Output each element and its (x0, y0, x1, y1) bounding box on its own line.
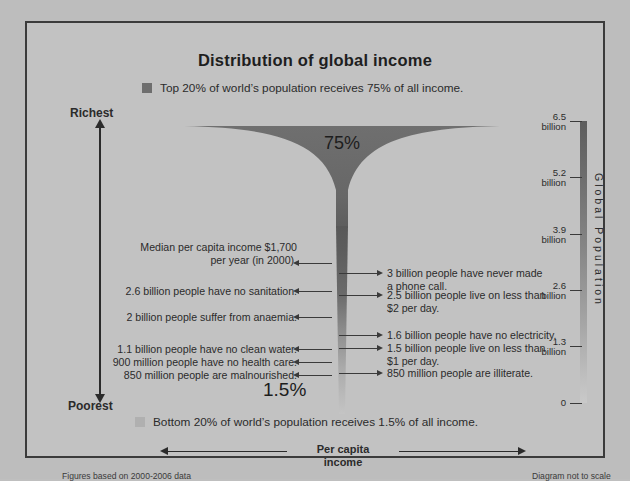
tick-unit: billion (500, 235, 566, 245)
leader-arrow-icon (293, 314, 299, 320)
tick-unit: billion (500, 347, 566, 357)
legend-top-swatch-icon (142, 83, 152, 93)
leader-arrow-icon (377, 292, 383, 298)
callout-line-1: 900 million people have no health care. (52, 356, 297, 369)
per-capita-axis-line-right (399, 451, 519, 452)
per-capita-axis-line-left (167, 451, 287, 452)
leader-line (299, 291, 332, 292)
tick-value: 0 (561, 397, 566, 408)
callout-left-sanitation: 2.6 billion people have no sanitation. (52, 285, 297, 298)
callout-line-2: $2 per day. (387, 302, 572, 315)
legend-top-label: Top 20% of world’s population receives 7… (160, 81, 463, 95)
leader-arrow-icon (293, 260, 299, 266)
callout-left-median-income: Median per capita income $1,700 per year… (82, 241, 297, 266)
population-tick-label: 3.9 billion (500, 225, 566, 245)
legend-bottom-swatch-icon (135, 417, 145, 427)
population-axis-title: Global Population (593, 173, 605, 307)
population-tick-label: 1.3 billion (500, 337, 566, 357)
axis-label-poorest: Poorest (68, 399, 113, 413)
tick-unit: billion (500, 178, 566, 188)
footer-note-left: Figures based on 2000-2006 data (62, 471, 191, 481)
callout-right-illiterate: 850 million people are illiterate. (387, 367, 572, 380)
leader-line (339, 335, 379, 336)
bottom-percent-label: 1.5% (263, 379, 306, 401)
leader-arrow-icon (377, 270, 383, 276)
legend-top: Top 20% of world’s population receives 7… (142, 81, 463, 95)
leader-arrow-icon (293, 288, 299, 294)
callout-line-1: 1.1 billion people have no clean water. (52, 343, 297, 356)
leader-arrow-icon (377, 370, 383, 376)
population-tick: 0 (570, 403, 582, 404)
population-tick: 5.2 billion (570, 177, 582, 178)
leader-arrow-icon (377, 345, 383, 351)
callout-line-1: 850 million people are illiterate. (387, 367, 572, 380)
leader-line (339, 295, 379, 296)
population-tick-label: 6.5 billion (500, 112, 566, 132)
footer-note-right: Diagram not to scale (532, 471, 611, 481)
global-population-bar (580, 121, 587, 403)
population-tick-label: 0 (500, 398, 566, 408)
callout-line-1: Median per capita income $1,700 (82, 241, 297, 254)
tick-unit: billion (500, 122, 566, 132)
callout-left-malnourished: 850 million people are malnourished. (52, 369, 297, 382)
callout-line-1: 850 million people are malnourished. (52, 369, 297, 382)
leader-line (339, 348, 379, 349)
population-tick: 3.9 billion (570, 234, 582, 235)
per-capita-label-line-2: income (292, 456, 394, 469)
population-tick: 1.3 billion (570, 346, 582, 347)
callout-line-1: 2.6 billion people have no sanitation. (52, 285, 297, 298)
population-tick-label: 2.6 billion (500, 281, 566, 301)
axis-label-richest: Richest (70, 106, 113, 120)
callout-line-1: 2 billion people suffer from anaemia. (52, 311, 297, 324)
leader-arrow-icon (377, 332, 383, 338)
leader-line (339, 373, 379, 374)
callout-left-health-care: 900 million people have no health care. (52, 356, 297, 369)
leader-line (299, 263, 332, 264)
leader-arrow-icon (293, 372, 299, 378)
callout-line-1: 3 billion people have never made (387, 267, 567, 280)
leader-line (339, 273, 379, 274)
population-tick: 6.5 billion (570, 121, 582, 122)
callout-left-anaemia: 2 billion people suffer from anaemia. (52, 311, 297, 324)
callout-line-2: per year (in 2000). (82, 254, 297, 267)
page-title: Distribution of global income (27, 51, 603, 70)
leader-line (299, 317, 332, 318)
leader-line (299, 375, 332, 376)
leader-arrow-icon (293, 359, 299, 365)
population-tick-label: 5.2 billion (500, 168, 566, 188)
arrow-up-icon (95, 119, 105, 128)
population-tick: 2.6 billion (570, 290, 582, 291)
per-capita-axis-label: Per capita income (292, 443, 394, 468)
per-capita-arrow-right-icon (518, 447, 526, 455)
leader-line (299, 362, 332, 363)
per-capita-label-line-1: Per capita (292, 443, 394, 456)
leader-arrow-icon (293, 346, 299, 352)
callout-left-clean-water: 1.1 billion people have no clean water. (52, 343, 297, 356)
top-percent-label: 75% (27, 133, 630, 154)
leader-line (299, 349, 332, 350)
chart-frame: Distribution of global income Top 20% of… (25, 21, 605, 458)
tick-unit: billion (500, 291, 566, 301)
